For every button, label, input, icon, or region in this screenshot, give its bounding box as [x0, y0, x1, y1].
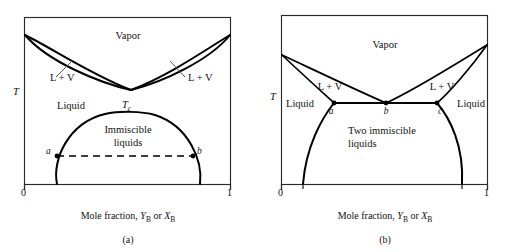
panel-a-point-a-marker [55, 154, 60, 159]
panel-a-label-liquid: Liquid [57, 100, 86, 111]
panel-b-point-c-marker [435, 101, 440, 106]
panel-b-label-two-immiscible-line2: liquids [348, 138, 377, 149]
panel-b-x-tick-label-0: 0 [278, 187, 283, 198]
panel-b-label-point-b: b [384, 106, 389, 116]
panel-b-label-lv-left: L + V [318, 81, 343, 92]
panel-b-label-two-immiscible-line1: Two immiscible [348, 125, 416, 136]
panel-a-label-critical-temperature: Tc [122, 99, 132, 113]
panel-b-x-axis-label: Mole fraction, YB or XB [338, 210, 433, 224]
panel-b-point-a-marker [332, 101, 337, 106]
panel-a-label-immiscible-line2: liquids [114, 137, 143, 148]
panel-b-y-axis-label: T [270, 91, 277, 102]
panel-a-label-lv-right: L + V [188, 72, 213, 83]
panel-b-label-point-a: a [329, 106, 334, 116]
panel-b-left-bubble-curve [282, 55, 334, 103]
panel-b-right-dew-curve [386, 45, 487, 103]
panel-b-label-vapor: Vapor [372, 39, 398, 50]
panel-b: Vapor L + V L + V Liquid Liquid Two immi… [270, 16, 489, 247]
panel-a-label-immiscible-line1: Immiscible [104, 124, 152, 135]
panel-b-right-bubble-curve [437, 45, 487, 103]
panel-b-left-dew-curve [282, 55, 386, 103]
panel-b-label-liquid-left: Liquid [286, 98, 315, 109]
panel-b-point-b-marker [384, 101, 389, 106]
panel-a-label-point-a: a [46, 146, 51, 156]
panel-b-x-tick-label-1: 1 [484, 187, 489, 198]
panel-a-point-b-marker [191, 154, 196, 159]
panel-a-caption: (a) [122, 234, 133, 246]
panel-a-x-tick-label-1: 1 [227, 187, 232, 198]
panel-a-label-point-b: b [197, 146, 202, 156]
panel-a-x-axis-label: Mole fraction, YB or XB [81, 210, 176, 224]
panel-a-label-lv-left: L + V [50, 72, 75, 83]
phase-diagram-figure: Vapor L + V L + V Liquid Immiscible liqu… [0, 0, 506, 252]
panel-b-label-lv-right: L + V [430, 81, 455, 92]
panel-a: Vapor L + V L + V Liquid Immiscible liqu… [13, 18, 232, 247]
panel-a-y-axis-label: T [13, 86, 20, 97]
panel-b-caption: (b) [379, 234, 391, 246]
panel-b-label-liquid-right: Liquid [457, 98, 486, 109]
panel-a-x-tick-label-0: 0 [21, 187, 26, 198]
panel-a-label-vapor: Vapor [115, 30, 141, 41]
